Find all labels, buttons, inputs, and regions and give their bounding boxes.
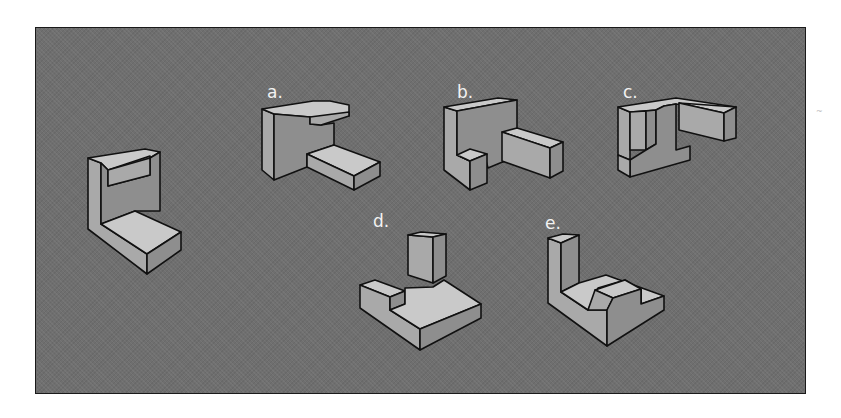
figure-artwork [0, 0, 841, 418]
option-label-e: e. [545, 215, 561, 232]
option-c-shape [618, 98, 736, 177]
option-a-shape [262, 101, 380, 190]
scan-artifact-mark: ~ [816, 107, 824, 111]
option-c-shape-face-2 [630, 111, 646, 150]
option-e-shape [548, 234, 664, 346]
option-label-d: d. [373, 213, 389, 230]
option-b-shape [444, 98, 563, 190]
option-c-shape-face-0 [618, 107, 630, 160]
option-label-b: b. [457, 84, 473, 101]
option-e-shape-face-2 [561, 235, 579, 292]
option-b-shape-face-4 [470, 154, 487, 190]
option-label-a: a. [267, 84, 283, 101]
option-a-shape-face-0 [262, 109, 274, 180]
option-d-shape-face-5 [408, 235, 433, 283]
option-label-c: c. [623, 84, 638, 101]
option-b-shape-face-7 [550, 142, 563, 178]
option-c-shape-face-8 [724, 107, 736, 141]
option-d-shape [360, 232, 481, 350]
option-d-shape-face-7 [433, 234, 446, 283]
reference-shape [88, 149, 181, 274]
